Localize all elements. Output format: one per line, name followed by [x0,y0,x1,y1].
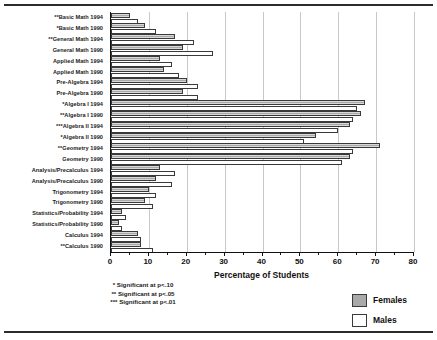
x-axis-tick [186,252,187,256]
x-axis-minor-tick [318,252,319,255]
x-axis-tick-label: 20 [181,257,190,266]
bar-females [111,78,187,83]
legend-label: Females [373,295,407,305]
x-axis-title: Percentage of Students [110,270,413,280]
bar-females [111,220,119,225]
x-axis-minor-tick [129,252,130,255]
x-axis-tick-label: 80 [409,257,418,266]
x-axis-tick-label: 0 [108,257,112,266]
x-axis-tick [110,252,111,256]
legend-swatch-females [352,294,367,307]
bar-females [111,100,365,105]
bar-females [111,165,160,170]
plot-area [110,12,413,252]
chart-figure: **Basic Math 1994*Basic Math 1990**Gener… [0,0,437,340]
bar-females [111,111,361,116]
y-axis-category-labels: **Basic Math 1994*Basic Math 1990**Gener… [0,12,107,252]
bar-rows [111,12,413,252]
footnote-line: ** Significant at p<.05 [58,290,228,299]
x-axis-tick-label: 40 [257,257,266,266]
y-axis-label: Analysis/Precalculus 1994 [32,167,103,174]
bar-females [111,242,141,247]
y-axis-label: *Algebra I 1994 [62,101,103,108]
x-axis-minor-tick [394,252,395,255]
x-axis-tick-label: 10 [143,257,152,266]
gridline [414,12,415,252]
y-axis-label: General Math 1990 [53,47,103,54]
y-axis-label: Calculus 1994 [65,232,103,239]
footnote-line: * Significant at p<.10 [58,281,228,290]
x-axis-minor-tick [205,252,206,255]
x-axis-tick [262,252,263,256]
x-axis-minor-tick [356,252,357,255]
x-axis-tick-labels: 01020304050607080 [110,257,413,269]
legend-label: Males [373,315,397,325]
x-axis-minor-tick [243,252,244,255]
bar-females [111,122,350,127]
x-axis-minor-tick [167,252,168,255]
y-axis-label: ***Algebra II 1994 [56,123,103,130]
y-axis-label: Statistics/Probability 1990 [32,221,103,228]
y-axis-label: Statistics/Probability 1994 [32,210,103,217]
x-axis-tick [413,252,414,256]
bar-females [111,89,183,94]
y-axis-label: Trigonometry 1990 [52,199,103,206]
y-axis-label: Analysis/Precalculus 1990 [32,178,103,185]
y-axis-label: *Basic Math 1990 [56,25,103,32]
x-axis-tick-label: 30 [219,257,228,266]
bar-females [111,231,138,236]
x-axis-tick-label: 50 [295,257,304,266]
y-axis-label: **Basic Math 1994 [54,14,103,21]
bar-females [111,67,164,72]
bar-females [111,198,145,203]
y-axis-label: **Geometry 1994 [58,145,103,152]
x-axis-tick-label: 70 [371,257,380,266]
y-axis-label: Trigonometry 1994 [52,189,103,196]
bar-females [111,56,160,61]
bar-females [111,45,183,50]
bar-females [111,187,149,192]
y-axis-label: **General Math 1994 [48,36,103,43]
x-axis-tick [224,252,225,256]
x-axis-tick [148,252,149,256]
bar-females [111,143,380,148]
x-axis-tick-label: 60 [333,257,342,266]
bar-females [111,34,175,39]
x-axis-minor-tick [280,252,281,255]
significance-footnotes: * Significant at p<.10** Significant at … [58,281,228,307]
y-axis-label: **Algebra I 1990 [60,112,103,119]
footnote-line: *** Significant at p<.01 [58,298,228,307]
y-axis-label: **Calculus 1990 [61,243,103,250]
bar-females [111,209,122,214]
chart-legend: FemalesMales [352,292,432,332]
legend-swatch-males [352,314,367,327]
legend-entry: Females [352,292,432,308]
x-axis-tick [337,252,338,256]
x-axis-tick [375,252,376,256]
y-axis-label: *Algebra II 1990 [61,134,103,141]
legend-entry: Males [352,312,432,328]
bar-females [111,13,130,18]
y-axis-label: Pre-Algebra 1994 [56,79,103,86]
x-axis-tick [299,252,300,256]
bar-females [111,133,316,138]
y-axis-label: Geometry 1990 [62,156,103,163]
bar-females [111,154,350,159]
y-axis-label: Applied Math 1990 [53,69,103,76]
top-divider-rule [4,4,433,6]
y-axis-label: Applied Math 1994 [53,58,103,65]
bar-females [111,23,145,28]
y-axis-label: Pre-Algebra 1990 [56,90,103,97]
bar-females [111,176,156,181]
